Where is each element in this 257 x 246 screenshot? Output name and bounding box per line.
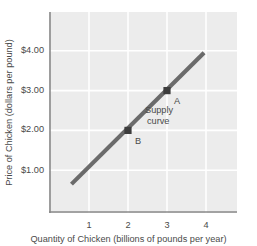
point-a-label: A	[174, 96, 181, 106]
x-axis-title: Quantity of Chicken (billions of pounds …	[30, 234, 226, 244]
x-tick-label-1: 1	[86, 220, 91, 230]
chart-canvas: $4.00 $3.00 $2.00 $1.00 1 2 3 4 Quantity…	[0, 0, 257, 246]
y-tick-label-1: $1.00	[21, 165, 44, 175]
y-tick-label-2: $2.00	[21, 124, 44, 134]
point-b-label: B	[135, 136, 141, 146]
supply-curve-label-line2: curve	[147, 116, 169, 126]
y-tick-label-4: $4.00	[21, 45, 44, 55]
x-tick-label-3: 3	[164, 220, 169, 230]
y-axis-title: Price of Chicken (dollars per pound)	[4, 39, 14, 186]
x-tick-label-4: 4	[203, 220, 208, 230]
supply-curve-label-line1: Supply	[145, 105, 173, 115]
data-point-a	[163, 87, 170, 94]
y-tick-label-3: $3.00	[21, 85, 44, 95]
data-point-b	[124, 127, 131, 134]
x-tick-label-2: 2	[125, 220, 130, 230]
supply-curve-figure: $4.00 $3.00 $2.00 $1.00 1 2 3 4 Quantity…	[0, 0, 257, 246]
